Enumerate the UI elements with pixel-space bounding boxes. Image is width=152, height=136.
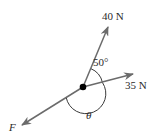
label-40n: 40 N: [102, 10, 124, 22]
force-vector-f: [22, 87, 83, 125]
point-of-application: [80, 84, 87, 91]
force-diagram: 40 N 35 N F 50° θ: [0, 0, 152, 136]
label-35n: 35 N: [125, 79, 147, 91]
angle-arc-50: [91, 69, 103, 83]
label-f: F: [8, 121, 16, 133]
label-angle-theta: θ: [86, 109, 92, 121]
label-angle-50: 50°: [93, 56, 108, 68]
